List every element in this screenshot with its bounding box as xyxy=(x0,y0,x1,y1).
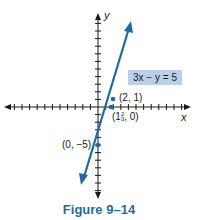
x-axis-left-arrow-icon xyxy=(4,104,11,110)
x-axis-label: x xyxy=(181,111,187,123)
line-top-arrow-icon xyxy=(124,21,133,33)
figure-caption: Figure 9–14 xyxy=(0,202,198,217)
point-y-intercept xyxy=(96,143,101,148)
x-axis-right-arrow-icon xyxy=(184,104,191,110)
y-axis-down-arrow-icon xyxy=(95,192,101,199)
point-x-intercept xyxy=(109,105,114,110)
point-label-2-1: (2, 1) xyxy=(119,92,142,103)
point-label-0-neg5: (0, −5) xyxy=(62,139,91,150)
coordinate-graph xyxy=(0,0,198,220)
point-2-1 xyxy=(111,97,116,102)
line-bottom-arrow-icon xyxy=(79,173,88,185)
x-intercept-label-pre: (1 xyxy=(112,111,121,122)
y-axis-label: y xyxy=(104,9,110,21)
equation-label: 3x − y = 5 xyxy=(128,70,182,85)
y-axis-up-arrow-icon xyxy=(95,13,101,20)
x-intercept-label-post: , 0) xyxy=(124,111,138,122)
point-label-x-intercept: (123, 0) xyxy=(112,111,139,122)
